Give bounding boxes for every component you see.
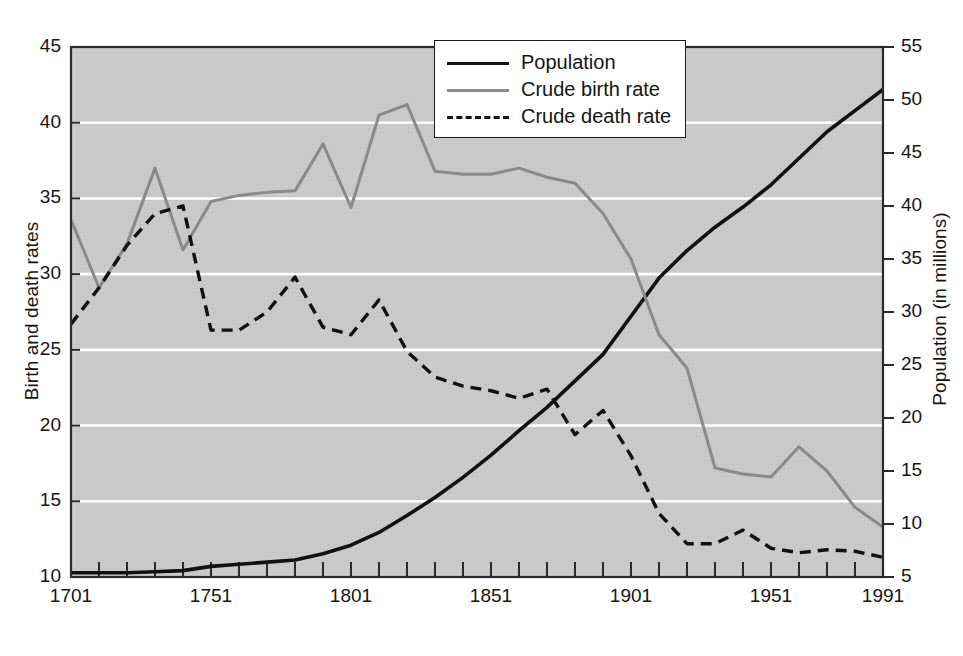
right-tick-label: 15 (901, 459, 949, 481)
left-tick-label: 40 (13, 111, 61, 133)
right-tick-label: 10 (901, 512, 949, 534)
right-axis-ticks (883, 47, 894, 577)
left-tick-label: 25 (13, 338, 61, 360)
x-tick-label: 1851 (451, 585, 531, 607)
left-tick-label: 35 (13, 186, 61, 208)
legend-item-population: Population (447, 48, 671, 75)
x-tick-label: 1951 (731, 585, 811, 607)
right-tick-label: 50 (901, 88, 949, 110)
legend-item-crude-death-rate: Crude death rate (447, 102, 671, 129)
right-tick-label: 40 (901, 194, 949, 216)
x-tick-label: 1701 (31, 585, 111, 607)
right-tick-label: 5 (901, 565, 949, 587)
right-tick-label: 25 (901, 353, 949, 375)
right-tick-label: 20 (901, 406, 949, 428)
left-tick-label: 45 (13, 35, 61, 57)
x-tick-label: 1991 (843, 585, 923, 607)
x-tick-label: 1751 (171, 585, 251, 607)
right-tick-label: 55 (901, 35, 949, 57)
legend-label-crude-death-rate: Crude death rate (521, 106, 671, 126)
legend-line-dashed-black-icon (447, 109, 509, 123)
x-tick-label: 1801 (311, 585, 391, 607)
chart-legend: Population Crude birth rate Crude death … (434, 40, 686, 138)
left-tick-label: 20 (13, 414, 61, 436)
legend-item-crude-birth-rate: Crude birth rate (447, 75, 671, 102)
left-tick-label: 10 (13, 565, 61, 587)
legend-line-solid-black-icon (447, 55, 509, 69)
right-tick-label: 45 (901, 141, 949, 163)
legend-label-crude-birth-rate: Crude birth rate (521, 79, 660, 99)
chart-figure: Birth and death rates Population (in mil… (0, 0, 963, 656)
legend-line-solid-gray-icon (447, 82, 509, 96)
legend-label-population: Population (521, 52, 616, 72)
x-tick-label: 1901 (591, 585, 671, 607)
right-tick-label: 35 (901, 247, 949, 269)
left-axis-title: Birth and death rates (21, 191, 43, 431)
right-tick-label: 30 (901, 300, 949, 322)
left-tick-label: 15 (13, 489, 61, 511)
left-tick-label: 30 (13, 262, 61, 284)
